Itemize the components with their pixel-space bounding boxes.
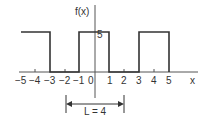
right-arrow-icon	[118, 101, 124, 107]
x-tick-labels: −5 −4 −3 −2 −1 0 1 2 3 4 5	[15, 75, 172, 86]
tick-label: 5	[166, 75, 172, 86]
period-label: L = 4	[84, 106, 107, 117]
left-arrow-icon	[66, 101, 72, 107]
high-value-label: 5	[97, 29, 103, 40]
square-wave-diagram: f(x) 5 x −5 −4 −3 −2 −1 0 1 2 3 4 5 L = …	[0, 0, 209, 122]
tick-label: 4	[151, 75, 157, 86]
tick-label: −1	[73, 75, 85, 86]
y-axis-label: f(x)	[75, 6, 89, 17]
tick-label: −5	[15, 75, 27, 86]
tick-label: −2	[59, 75, 71, 86]
tick-label: 3	[136, 75, 142, 86]
tick-label: 1	[107, 75, 113, 86]
x-axis-label: x	[190, 75, 195, 86]
tick-label: 0	[88, 75, 94, 86]
tick-label: −4	[29, 75, 41, 86]
tick-label: −3	[44, 75, 56, 86]
tick-label: 2	[121, 75, 127, 86]
